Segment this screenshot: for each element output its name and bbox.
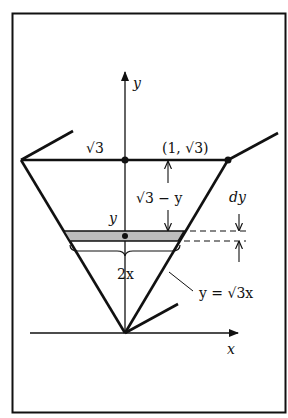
x-axis-label: x <box>227 341 235 357</box>
right-extension <box>228 133 278 160</box>
y-axis-label: y <box>132 75 142 91</box>
strip-level-label: y <box>108 210 118 226</box>
left-extension <box>21 131 73 160</box>
equation-leader <box>169 272 193 291</box>
point-label: (1, √3) <box>162 140 209 156</box>
point-1-sqrt3 <box>225 157 232 164</box>
strip-center-point <box>122 233 128 239</box>
width-label: 2x <box>117 266 134 282</box>
cone-left-side <box>21 160 125 333</box>
cone-cross-section-diagram: y x √3 (1, √3) √3 − y dy y 2x y = √3x <box>0 0 288 418</box>
dy-label: dy <box>229 189 247 205</box>
origin-top-point <box>122 157 129 164</box>
line-equation-label: y = √3x <box>198 285 253 301</box>
cone-right-side <box>125 160 228 333</box>
height-remaining-label: √3 − y <box>136 190 182 206</box>
sqrt3-label: √3 <box>86 140 104 156</box>
